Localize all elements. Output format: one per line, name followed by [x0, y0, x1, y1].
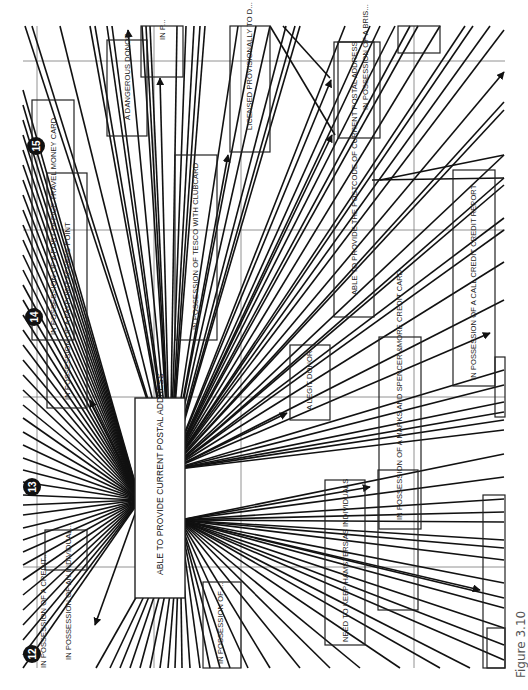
box-bris — [338, 42, 380, 138]
badge-13: 13 — [23, 478, 41, 496]
label-bottom-left-2: IN POSSESSION OF A CREDIT... — [40, 552, 48, 668]
label-clubcard: IN POSSESSION OF TESCO WITH CLUBCARD — [192, 163, 200, 330]
label-bottom-left: IN POSSESSION OF ... — [217, 582, 225, 664]
label-dangerous-donor: A DANGEROUS DONOR — [124, 33, 132, 120]
label-keep-hamsters: NEED TO KEEP HAMSTERS AS INDIVIDUALS — [342, 479, 350, 642]
center-node-label: ABLE TO PROVIDE CURRENT POSTAL ADDRESS — [156, 373, 165, 575]
label-bris: IN POSSESSION OF A BRIS... — [362, 4, 370, 110]
badge-15: 15 — [27, 137, 45, 155]
box-right-edge-3 — [487, 628, 505, 668]
badge-14: 14 — [25, 308, 43, 326]
box-right-edge-1 — [495, 357, 505, 417]
label-ms-card: IN POSSESSION OF A MARKS AND SPENCER &MO… — [396, 270, 404, 520]
label-credit-report: IN POSSESSION OF A CALL CREDIT CREDIT RE… — [470, 185, 478, 380]
label-in-p: IN P... — [159, 19, 167, 40]
label-licensed: LICENSED PROVISIONALLY TO D... — [246, 2, 254, 130]
label-in-possession-left: IN POSSESSION OF AN INDIVIDUAL... — [65, 523, 73, 660]
badge-12: 12 — [23, 645, 41, 663]
figure-caption: Figure 3.10 — [514, 611, 528, 678]
box-top-right — [398, 26, 440, 53]
label-money-card: IN POSSESSION OF A POST OFFICE TRAVEL MO… — [50, 118, 58, 335]
label-current-postcode: ABLE TO PROVIDE THE POSTCODE OF CURRENT … — [351, 41, 359, 295]
label-legit-donor: A LEGIT DONOR — [306, 350, 314, 410]
label-access-point: IN POSSESSION OF A PAYPOINT ACCESS POINT — [64, 222, 72, 400]
